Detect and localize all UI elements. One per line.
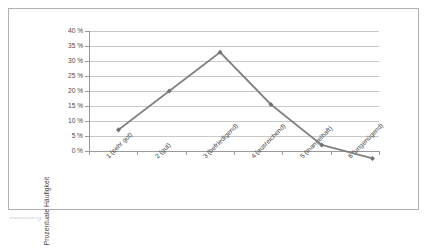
value-axis-tick-label: 10 % [53, 117, 83, 124]
value-axis-tick-label: 0 % [53, 147, 83, 154]
value-axis-tick [85, 106, 89, 107]
gridline [89, 91, 379, 92]
value-axis-tick-label-wrap: 10 % [53, 117, 83, 124]
category-axis-tick-label: 5 (mangelhaft) [297, 125, 334, 162]
value-axis-tick [85, 151, 89, 152]
value-axis-tick-label: 25 % [53, 72, 83, 79]
data-point-marker [116, 127, 121, 132]
value-axis-tick-label-wrap: 25 % [53, 72, 83, 79]
value-axis-line [89, 31, 90, 151]
value-axis-tick-label-wrap: 40 % [53, 27, 83, 34]
value-axis-tick-label-wrap: 5 % [53, 132, 83, 139]
value-axis-tick-label-wrap: 35 % [53, 42, 83, 49]
value-axis-tick-label-wrap: 30 % [53, 57, 83, 64]
value-axis-tick [85, 31, 89, 32]
data-point-marker [218, 50, 223, 55]
value-axis-tick-label: 15 % [53, 102, 83, 109]
value-axis-tick-label: 5 % [53, 132, 83, 139]
value-axis-tick-label-wrap: 0 % [53, 147, 83, 154]
caption-fragment: Abbildung [10, 217, 130, 227]
category-axis-tick [137, 151, 138, 155]
category-axis-tick [282, 151, 283, 155]
category-axis-tick [379, 151, 380, 155]
category-axis-tick-label: 6 (ungenügend) [345, 122, 385, 162]
value-axis-tick-label-wrap: 15 % [53, 102, 83, 109]
value-axis-tick-label: 30 % [53, 57, 83, 64]
data-point-marker [370, 156, 375, 161]
category-axis-tick [186, 151, 187, 155]
caption-fragment-text: Abbildung [10, 217, 130, 221]
gridline [89, 46, 379, 47]
value-axis-tick [85, 61, 89, 62]
category-axis-tick [331, 151, 332, 155]
value-axis-title: Prozentuale Häufigkeit [41, 31, 53, 151]
value-axis-tick [85, 136, 89, 137]
value-axis-tick-label: 20 % [53, 87, 83, 94]
category-axis-tick [89, 151, 90, 155]
value-axis-tick [85, 121, 89, 122]
category-axis-tick-label: 3 (befriedigend) [200, 122, 240, 162]
value-axis-title-text: Prozentuale Häufigkeit [41, 151, 53, 249]
value-axis-tick-label-wrap: 20 % [53, 87, 83, 94]
value-axis-tick-label: 35 % [53, 42, 83, 49]
value-axis-tick-label: 40 % [53, 27, 83, 34]
gridline [89, 106, 379, 107]
value-axis-tick [85, 76, 89, 77]
gridline [89, 61, 379, 62]
category-axis-tick [234, 151, 235, 155]
chart-frame: 40 %35 %30 %25 %20 %15 %10 %5 %0 % Proze… [8, 8, 419, 210]
value-axis-tick [85, 46, 89, 47]
figure-container: 40 %35 %30 %25 %20 %15 %10 %5 %0 % Proze… [0, 0, 432, 227]
gridline [89, 31, 379, 32]
value-axis-tick [85, 91, 89, 92]
gridline [89, 76, 379, 77]
category-axis-tick-label: 4 (ausreichend) [248, 122, 287, 161]
